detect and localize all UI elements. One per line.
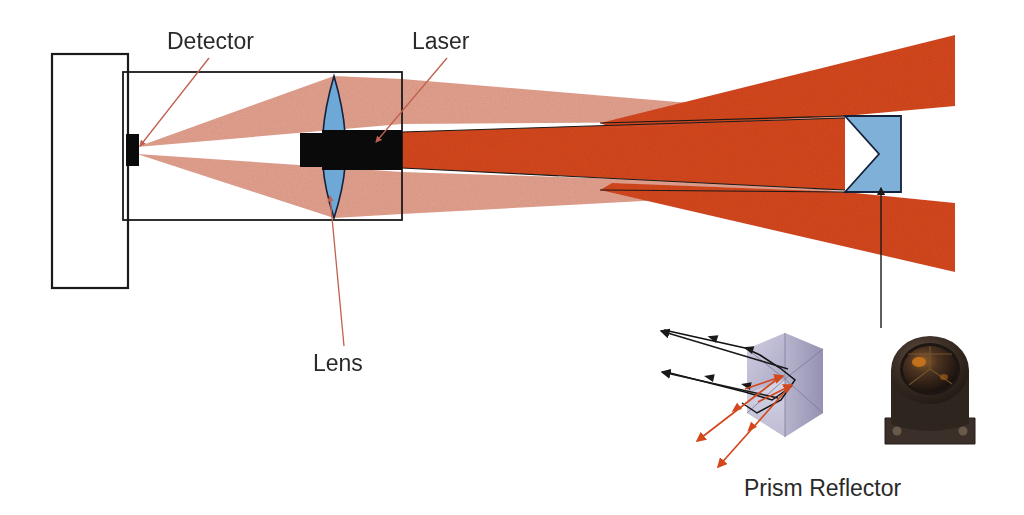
laser-tube bbox=[300, 133, 326, 167]
lens-leader-line bbox=[330, 196, 344, 346]
photo-highlight-2 bbox=[940, 374, 948, 380]
diagram-canvas: Detector Laser Lens bbox=[0, 0, 1024, 515]
optical-diagram: Detector Laser Lens bbox=[0, 0, 1024, 515]
photo-highlight bbox=[912, 357, 926, 367]
reflector-photo bbox=[885, 336, 975, 444]
laser-label: Laser bbox=[412, 28, 470, 54]
prism-inset: Prism Reflector bbox=[661, 330, 975, 501]
instrument-housing bbox=[52, 54, 128, 288]
detector-element bbox=[126, 134, 139, 166]
prism-reflector-caption: Prism Reflector bbox=[744, 475, 902, 501]
photo-mount-hole-right bbox=[959, 427, 968, 436]
lens-label: Lens bbox=[313, 350, 363, 376]
prism-reflector-target bbox=[845, 116, 901, 192]
laser-module bbox=[322, 130, 402, 170]
photo-mount-hole-left bbox=[893, 427, 902, 436]
detector-label: Detector bbox=[167, 28, 254, 54]
